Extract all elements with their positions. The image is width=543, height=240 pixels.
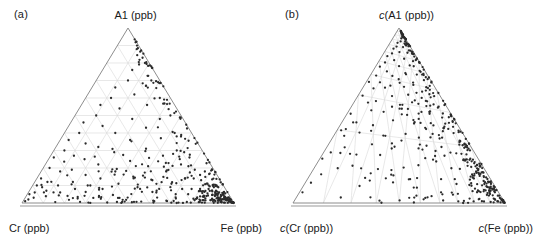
data-point bbox=[137, 47, 139, 49]
data-point bbox=[480, 171, 482, 173]
data-point bbox=[71, 169, 73, 171]
data-point bbox=[84, 142, 86, 144]
data-point bbox=[434, 155, 436, 157]
data-point bbox=[73, 155, 75, 157]
data-point bbox=[187, 176, 189, 178]
data-point bbox=[488, 192, 490, 194]
data-point bbox=[431, 133, 433, 135]
data-point bbox=[202, 184, 204, 186]
data-point bbox=[457, 131, 459, 133]
data-point bbox=[54, 201, 56, 203]
data-point bbox=[219, 181, 221, 183]
data-point bbox=[368, 81, 370, 83]
data-point bbox=[401, 113, 403, 115]
data-point bbox=[145, 127, 147, 129]
data-point bbox=[392, 119, 394, 121]
data-point bbox=[443, 104, 445, 106]
data-point bbox=[429, 110, 431, 112]
data-point bbox=[429, 136, 431, 138]
data-point bbox=[408, 44, 410, 46]
data-point bbox=[495, 189, 497, 191]
data-point bbox=[114, 86, 116, 88]
data-points bbox=[301, 30, 506, 205]
data-point bbox=[97, 163, 99, 165]
panel-a: (a) A1 (ppb) Cr (ppb) Fe (ppb) bbox=[0, 0, 271, 240]
data-point bbox=[463, 200, 465, 202]
data-point bbox=[155, 80, 157, 82]
data-point bbox=[116, 168, 118, 170]
data-point bbox=[177, 201, 179, 203]
data-point bbox=[199, 195, 201, 197]
data-point bbox=[52, 191, 54, 193]
data-point bbox=[367, 101, 369, 103]
data-point bbox=[340, 196, 342, 198]
data-point bbox=[399, 82, 401, 84]
data-point bbox=[201, 201, 203, 203]
ternary-plot-figure: (a) A1 (ppb) Cr (ppb) Fe (ppb) (b) c(A1 … bbox=[0, 0, 543, 240]
data-point bbox=[485, 185, 487, 187]
data-point bbox=[137, 183, 139, 185]
data-point bbox=[428, 93, 430, 95]
data-point bbox=[53, 156, 55, 158]
data-point bbox=[421, 148, 423, 150]
data-point bbox=[473, 162, 475, 164]
data-point bbox=[402, 46, 404, 48]
data-point bbox=[470, 185, 472, 187]
data-point bbox=[183, 151, 185, 153]
data-point bbox=[149, 64, 151, 66]
data-point bbox=[355, 121, 357, 123]
data-point bbox=[167, 108, 169, 110]
data-point bbox=[151, 191, 153, 193]
data-point bbox=[479, 165, 481, 167]
data-point bbox=[48, 167, 50, 169]
data-point bbox=[370, 109, 372, 111]
data-point bbox=[401, 104, 403, 106]
data-point bbox=[140, 200, 142, 202]
data-point bbox=[457, 200, 459, 202]
data-point bbox=[72, 181, 74, 183]
data-point bbox=[358, 131, 360, 133]
data-point bbox=[162, 155, 164, 157]
data-point bbox=[415, 195, 417, 197]
data-point bbox=[171, 165, 173, 167]
data-point bbox=[417, 164, 419, 166]
data-point bbox=[384, 61, 386, 63]
data-point bbox=[345, 128, 347, 130]
data-point bbox=[417, 147, 419, 149]
data-point bbox=[142, 175, 144, 177]
data-point bbox=[361, 94, 363, 96]
data-point bbox=[469, 179, 471, 181]
data-point bbox=[455, 183, 457, 185]
data-point bbox=[124, 200, 126, 202]
data-point bbox=[211, 189, 213, 191]
data-point bbox=[226, 197, 228, 199]
data-point bbox=[200, 179, 202, 181]
data-point bbox=[113, 151, 115, 153]
data-point bbox=[144, 171, 146, 173]
data-point bbox=[146, 104, 148, 106]
data-point bbox=[409, 178, 411, 180]
data-point bbox=[222, 192, 224, 194]
data-point bbox=[227, 202, 229, 204]
data-point bbox=[390, 174, 392, 176]
data-point bbox=[110, 171, 112, 173]
data-point bbox=[386, 55, 388, 57]
data-point bbox=[142, 53, 144, 55]
data-point bbox=[187, 140, 189, 142]
data-point bbox=[480, 163, 482, 165]
data-point bbox=[215, 197, 217, 199]
data-point bbox=[494, 191, 496, 193]
data-point bbox=[497, 200, 499, 202]
data-point bbox=[396, 42, 398, 44]
data-point bbox=[167, 162, 169, 164]
data-point bbox=[429, 85, 431, 87]
data-point bbox=[211, 198, 213, 200]
data-point bbox=[36, 184, 38, 186]
data-point bbox=[122, 199, 124, 201]
data-point bbox=[405, 73, 407, 75]
data-point bbox=[409, 64, 411, 66]
data-point bbox=[441, 137, 443, 139]
data-point bbox=[72, 197, 74, 199]
data-point bbox=[429, 89, 431, 91]
data-point bbox=[440, 178, 442, 180]
